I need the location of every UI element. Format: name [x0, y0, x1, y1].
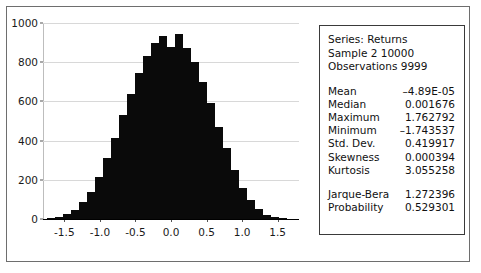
stat-value: 0.001676 — [405, 98, 455, 111]
histogram-bar — [199, 82, 207, 219]
stat-label: Maximum — [328, 111, 380, 124]
histogram-bar — [135, 73, 143, 219]
statistic-row: Std. Dev.0.419917 — [328, 137, 464, 150]
stat-value: –4.89E-05 — [403, 85, 455, 98]
statistic-row: Skewness0.000394 — [328, 151, 464, 164]
histogram-bar — [231, 170, 239, 219]
statistic-row: Minimum–1.743537 — [328, 124, 464, 137]
x-tick-label: 1.5 — [269, 226, 286, 238]
x-tick-label: -1.5 — [54, 226, 75, 238]
statistics-header: Series: ReturnsSample 2 10000Observation… — [328, 33, 464, 74]
y-tick-label: 1000 — [11, 17, 38, 29]
histogram-bar — [239, 188, 247, 219]
histogram-bar — [223, 148, 231, 219]
histogram-bars — [43, 23, 299, 219]
stat-label: Std. Dev. — [328, 137, 375, 150]
x-tick-label: -1.0 — [90, 226, 111, 238]
histogram-bar — [255, 209, 263, 219]
y-tick-label: 0 — [31, 213, 38, 225]
statistic-row: Median0.001676 — [328, 98, 464, 111]
histogram-bar — [167, 47, 175, 219]
stat-value: –1.743537 — [400, 124, 455, 137]
spacer — [328, 177, 464, 188]
spacer — [328, 74, 464, 85]
stat-value: 0.529301 — [405, 201, 455, 214]
histogram-bar — [119, 115, 127, 219]
chart-frame: 02004006008001000 -1.5-1.0-0.50.00.51.01… — [6, 6, 470, 262]
statistics-tests: Jarque-Bera1.272396Probability0.529301 — [328, 188, 464, 214]
stat-label: Jarque-Bera — [328, 188, 389, 201]
histogram-bar — [215, 127, 223, 219]
statistic-row: Maximum1.762792 — [328, 111, 464, 124]
x-tick-label: -0.5 — [125, 226, 146, 238]
histogram-bar — [191, 62, 199, 219]
stat-value: 0.000394 — [405, 151, 455, 164]
x-tick-label: 0.5 — [198, 226, 215, 238]
statistic-row: Mean–4.89E-05 — [328, 85, 464, 98]
stat-label: Minimum — [328, 124, 377, 137]
histogram-bar — [111, 138, 119, 219]
histogram-bar — [79, 202, 87, 219]
histogram-bar — [159, 36, 167, 219]
histogram-bar — [95, 177, 103, 219]
stat-label: Probability — [328, 201, 384, 214]
statistic-row: Kurtosis3.055258 — [328, 164, 464, 177]
histogram-bar — [127, 94, 135, 219]
statistics-header-line: Observations 9999 — [328, 60, 464, 74]
stat-value: 1.762792 — [405, 111, 455, 124]
y-tick-label: 400 — [18, 135, 38, 147]
stat-value: 1.272396 — [405, 188, 455, 201]
stat-value: 0.419917 — [405, 137, 455, 150]
statistics-header-line: Sample 2 10000 — [328, 47, 464, 61]
y-tick-label: 200 — [18, 174, 38, 186]
y-tick-label: 800 — [18, 56, 38, 68]
x-tick-label: 0.0 — [163, 226, 180, 238]
statistics-header-line: Series: Returns — [328, 33, 464, 47]
histogram-bar — [71, 210, 79, 219]
stat-label: Skewness — [328, 151, 379, 164]
test-row: Jarque-Bera1.272396 — [328, 188, 464, 201]
histogram-bar — [247, 200, 255, 219]
stat-label: Median — [328, 98, 366, 111]
histogram-plot: 02004006008001000 -1.5-1.0-0.50.00.51.01… — [43, 23, 299, 219]
histogram-bar — [207, 103, 215, 219]
x-tick-label: 1.0 — [234, 226, 251, 238]
plot-axes: 02004006008001000 -1.5-1.0-0.50.00.51.01… — [43, 23, 299, 219]
stat-value: 3.055258 — [405, 164, 455, 177]
x-axis-line — [43, 219, 299, 220]
statistics-rows: Mean–4.89E-05Median0.001676Maximum1.7627… — [328, 85, 464, 177]
stat-label: Mean — [328, 85, 357, 98]
histogram-bar — [183, 48, 191, 219]
statistics-panel: Series: ReturnsSample 2 10000Observation… — [319, 25, 465, 235]
histogram-bar — [143, 56, 151, 219]
y-tick-label: 600 — [18, 95, 38, 107]
histogram-bar — [151, 43, 159, 219]
histogram-bar — [87, 192, 95, 219]
histogram-bar — [103, 158, 111, 219]
stat-label: Kurtosis — [328, 164, 370, 177]
histogram-bar — [175, 34, 183, 219]
test-row: Probability0.529301 — [328, 201, 464, 214]
